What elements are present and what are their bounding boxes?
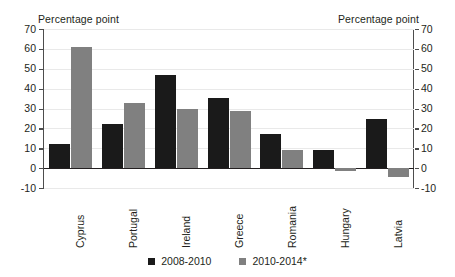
bar <box>366 119 387 168</box>
x-axis-label: Cyprus <box>75 215 86 248</box>
bar <box>282 150 303 169</box>
x-axis-label: Ireland <box>181 216 192 248</box>
right-axis-title: Percentage point <box>338 13 419 25</box>
bar <box>71 47 92 168</box>
bar <box>102 124 123 168</box>
y-tick-right <box>415 109 419 110</box>
chart-legend: 2008-20102010-2014* <box>0 256 455 267</box>
y-tick-right <box>415 69 419 70</box>
y-tick-label-left: 50 <box>24 63 36 74</box>
bar <box>260 134 281 168</box>
y-tick-right <box>415 168 419 169</box>
y-tick-right <box>415 89 419 90</box>
bar <box>388 168 409 177</box>
y-tick-label-right: 60 <box>421 43 433 54</box>
y-tick-label-left: 20 <box>24 123 36 134</box>
legend-item[interactable]: 2010-2014* <box>239 256 306 267</box>
bar <box>177 109 198 168</box>
legend-item[interactable]: 2008-2010 <box>148 256 211 267</box>
legend-label: 2010-2014* <box>252 256 306 267</box>
y-tick-label-left: 10 <box>24 143 36 154</box>
y-tick-left <box>39 148 43 149</box>
gridline <box>44 89 414 90</box>
bar <box>155 75 176 168</box>
bar <box>208 98 229 168</box>
legend-label: 2008-2010 <box>161 256 211 267</box>
y-tick-label-left: 40 <box>24 83 36 94</box>
y-tick-label-left: 0 <box>30 163 36 174</box>
y-tick-label-right: 40 <box>421 83 433 94</box>
legend-swatch-icon <box>148 258 155 265</box>
y-tick-label-left: 60 <box>24 43 36 54</box>
y-tick-right <box>415 49 419 50</box>
y-tick-label-right: -10 <box>421 183 436 194</box>
y-tick-label-right: 30 <box>421 103 433 114</box>
y-tick-left <box>39 89 43 90</box>
x-axis-label: Portugal <box>128 209 139 248</box>
chart-container: Percentage point Percentage point -10-10… <box>0 0 455 277</box>
y-tick-right <box>415 188 419 189</box>
legend-swatch-icon <box>239 258 246 265</box>
bar <box>49 144 70 168</box>
bar <box>313 150 334 168</box>
y-tick-label-left: -10 <box>21 183 36 194</box>
gridline <box>44 188 414 189</box>
bar <box>124 103 145 168</box>
left-axis-title: Percentage point <box>38 13 119 25</box>
y-tick-right <box>415 128 419 129</box>
y-tick-left <box>39 109 43 110</box>
y-tick-label-right: 10 <box>421 143 433 154</box>
gridline <box>44 49 414 50</box>
y-tick-label-right: 0 <box>421 163 427 174</box>
y-tick-label-left: 30 <box>24 103 36 114</box>
bar <box>230 111 251 168</box>
y-tick-left <box>39 69 43 70</box>
gridline <box>44 69 414 70</box>
x-axis-label: Greece <box>234 214 245 248</box>
y-tick-label-right: 20 <box>421 123 433 134</box>
gridline <box>44 109 414 110</box>
x-axis-label: Romania <box>287 206 298 248</box>
y-tick-right <box>415 29 419 30</box>
y-tick-label-right: 50 <box>421 63 433 74</box>
y-tick-left <box>39 29 43 30</box>
y-tick-right <box>415 148 419 149</box>
y-tick-left <box>39 168 43 169</box>
y-tick-label-left: 70 <box>24 24 36 35</box>
bar <box>335 168 356 171</box>
y-tick-left <box>39 188 43 189</box>
gridline <box>44 29 414 30</box>
y-tick-left <box>39 49 43 50</box>
zero-line <box>44 168 414 169</box>
x-axis-label: Hungary <box>340 208 351 248</box>
y-tick-label-right: 70 <box>421 24 433 35</box>
y-tick-left <box>39 128 43 129</box>
x-axis-label: Latvia <box>393 220 404 248</box>
plot-area <box>44 29 414 188</box>
